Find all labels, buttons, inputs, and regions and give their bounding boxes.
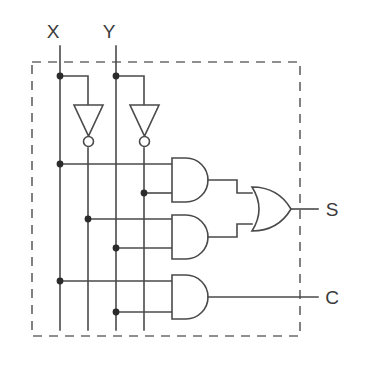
inverter-x-bubble (84, 137, 94, 147)
and-gate-2 (88, 215, 252, 259)
input-rails (60, 46, 144, 330)
input-label-x: X (47, 21, 60, 42)
or-gate-sum (252, 187, 318, 231)
input-label-y: Y (103, 21, 116, 42)
inverter-x-input-wire (60, 76, 88, 105)
and-gate-1-body (172, 158, 208, 202)
and-gate-3-body (172, 275, 208, 319)
output-label-s: S (326, 199, 339, 220)
junction-tap-x-top (57, 73, 64, 80)
or-gate-sum-body (252, 187, 291, 231)
circuit-canvas: X Y S C (0, 0, 369, 365)
junction-tap-noty-and1 (141, 190, 148, 197)
junction-tap-y-and3 (113, 309, 120, 316)
junction-tap-y-top (113, 73, 120, 80)
inverter-y (116, 76, 159, 147)
junction-tap-x-and1 (57, 161, 64, 168)
junction-tap-x-and3 (57, 278, 64, 285)
inverter-y-bubble (140, 137, 150, 147)
logic-circuit-diagram: X Y S C (0, 0, 369, 365)
and-gate-2-output-wire (208, 224, 252, 237)
and-gate-2-body (172, 215, 208, 259)
inverter-x (60, 76, 103, 147)
inverter-y-input-wire (116, 76, 144, 105)
output-label-c: C (325, 287, 339, 308)
junction-tap-notx-and2 (85, 216, 92, 223)
and-gate-1-output-wire (208, 180, 252, 193)
junction-tap-y-and2 (113, 245, 120, 252)
inverter-x-triangle (74, 105, 103, 136)
and-gate-3 (60, 275, 318, 319)
inverter-y-triangle (130, 105, 159, 136)
